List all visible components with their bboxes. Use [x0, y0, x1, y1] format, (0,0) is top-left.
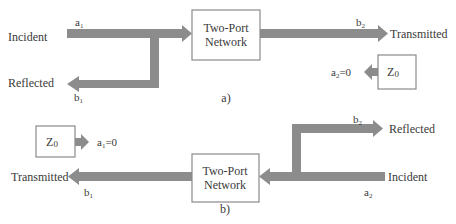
wave-label-a2: a2 — [364, 186, 373, 200]
wave-label-b1: b1 — [84, 186, 94, 200]
reflected-label: Reflected — [8, 76, 54, 90]
transmitted-label: Transmitted — [11, 170, 69, 184]
network-label-line2: Network — [205, 35, 247, 49]
panel-b: Z0 a1=0 Transmitted b1 Two-Port Network … — [11, 113, 435, 216]
wave-label-a1: a1 — [75, 16, 84, 30]
incident-label: Incident — [8, 30, 48, 44]
network-label-line2: Network — [204, 178, 246, 192]
wave-label-a1-zero: a1=0 — [97, 136, 118, 150]
incident-arrow-a2 — [259, 168, 385, 185]
wave-label-b2: b2 — [353, 113, 363, 127]
load-arrow-a1 — [75, 134, 89, 150]
network-label-line1: Two-Port — [203, 21, 249, 35]
load-arrow-a2 — [364, 64, 378, 80]
wave-label-a2-zero: a2=0 — [331, 66, 352, 80]
incident-label: Incident — [388, 170, 428, 184]
network-label-line1: Two-Port — [202, 164, 248, 178]
reflected-label: Reflected — [389, 122, 435, 136]
wave-label-b1: b1 — [74, 91, 84, 105]
wave-label-b2: b2 — [356, 16, 366, 30]
transmitted-label: Transmitted — [390, 27, 448, 41]
transmitted-arrow-b2 — [260, 25, 388, 42]
panel-a: Incident a1 Reflected b1 Two-Port Networ… — [8, 10, 448, 105]
two-port-scattering-diagram: Incident a1 Reflected b1 Two-Port Networ… — [0, 0, 456, 224]
reflected-arrow-b2 — [292, 120, 383, 172]
incident-arrow-a1 — [67, 25, 192, 42]
caption-b: b) — [220, 202, 230, 216]
reflected-arrow-b1 — [67, 38, 159, 92]
caption-a: a) — [221, 91, 230, 105]
transmitted-arrow-b1 — [68, 168, 192, 185]
